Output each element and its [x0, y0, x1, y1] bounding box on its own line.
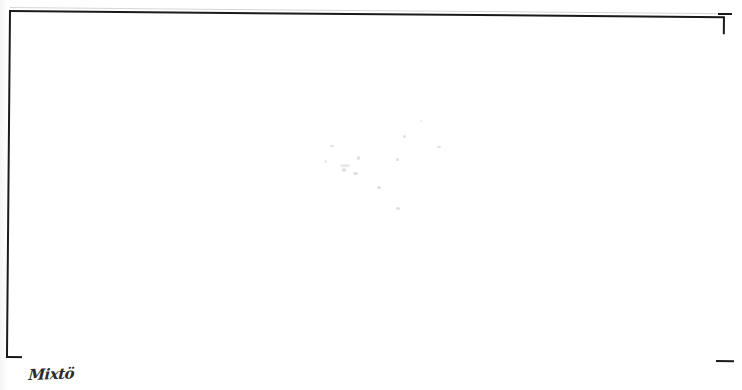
empty-bordered-box	[6, 10, 725, 364]
scanned-page: Mixtö	[0, 0, 742, 390]
frame-top-rule-overshoot	[718, 13, 732, 15]
box-interior-empty-area	[22, 28, 731, 372]
frame-container	[0, 0, 742, 390]
frame-bottom-rule-overshoot	[716, 360, 734, 362]
handwritten-annotation: Mixtö	[28, 366, 75, 383]
